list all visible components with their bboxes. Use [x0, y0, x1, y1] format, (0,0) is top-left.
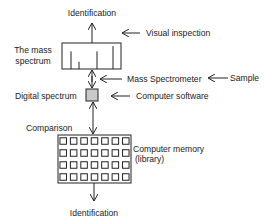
library-cell [91, 150, 98, 157]
library-cell [91, 138, 98, 145]
library-cell [91, 162, 98, 169]
library-cell [60, 150, 67, 157]
library-cell [81, 162, 88, 169]
digital-spectrum-label: Digital spectrum [15, 91, 77, 101]
library-cell [81, 138, 88, 145]
library-cell [81, 150, 88, 157]
visual-inspection-label: Visual inspection [146, 28, 211, 38]
library-cell [123, 162, 130, 169]
library-cell [123, 138, 130, 145]
library-cell [112, 150, 119, 157]
library-cell [81, 174, 88, 181]
comparison-label: Comparison [26, 123, 73, 133]
library-cell [102, 174, 109, 181]
computer-memory-label-line2: (library) [135, 154, 164, 164]
mass-spectrometer-label: Mass Spectrometer [127, 74, 202, 84]
library-cell [60, 138, 67, 145]
library-cell [102, 138, 109, 145]
library-cell [60, 162, 67, 169]
library-cell [91, 174, 98, 181]
computer-memory-label-line1: Computer memory [133, 144, 205, 154]
mass-spectrum-label-line1: The mass [14, 45, 52, 55]
library-cell [123, 150, 130, 157]
library-cell [70, 174, 77, 181]
library-cell [102, 150, 109, 157]
library-cell [102, 162, 109, 169]
diagram-canvas: Identification Visual inspection The mas… [0, 0, 271, 224]
digital-spectrum-box [86, 89, 98, 101]
identification-top-label: Identification [68, 8, 116, 18]
library-cell [70, 162, 77, 169]
library-cell [70, 150, 77, 157]
computer-software-label: Computer software [136, 91, 209, 101]
library-cell [123, 174, 130, 181]
library-cell [112, 138, 119, 145]
library-cell [60, 174, 67, 181]
library-cell [112, 174, 119, 181]
mass-spectrum-label-line2: spectrum [15, 56, 50, 66]
identification-bottom-label: Identification [70, 208, 118, 218]
library-cell [112, 162, 119, 169]
sample-label: Sample [230, 73, 259, 83]
library-cell [70, 138, 77, 145]
